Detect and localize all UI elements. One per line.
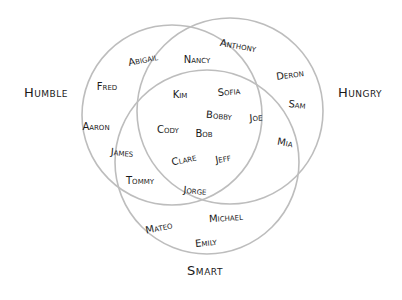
person-label-jorge: Jorge — [183, 185, 207, 197]
circle-humble — [82, 25, 262, 205]
set-label-smart: Smart — [187, 264, 223, 277]
person-label-sofia: Sofia — [217, 86, 241, 98]
person-label-kim: Kim — [173, 90, 188, 100]
person-label-aaron: Aaron — [82, 122, 109, 132]
person-label-cody: Cody — [157, 125, 179, 135]
person-label-joe: Joe — [249, 112, 263, 123]
person-label-sam: Sam — [288, 99, 306, 111]
circle-smart — [115, 70, 299, 254]
person-label-nancy: Nancy — [184, 55, 211, 65]
person-label-bob: Bob — [195, 129, 212, 139]
set-label-humble: Humble — [24, 86, 68, 99]
person-label-bobby: Bobby — [206, 110, 233, 122]
person-label-james: James — [110, 147, 133, 159]
person-label-fred: Fred — [97, 82, 117, 92]
set-label-hungry: Hungry — [338, 86, 382, 99]
person-label-tommy: Tommy — [126, 176, 154, 186]
venn-diagram — [0, 0, 402, 300]
